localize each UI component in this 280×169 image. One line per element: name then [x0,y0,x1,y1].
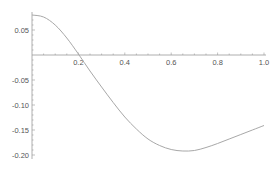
x-tick-label: 0.8 [212,58,222,67]
x-tick-label: 1.0 [259,58,269,67]
data-curve [32,15,264,151]
y-tick-label: -0.10 [12,101,29,110]
ticks [32,20,264,155]
line-chart: 0.20.40.60.81.00.05-0.05-0.10-0.15-0.20 [0,0,280,169]
x-tick-label: 0.6 [166,58,176,67]
y-tick-label: -0.05 [12,76,29,85]
tick-labels: 0.20.40.60.81.00.05-0.05-0.10-0.15-0.20 [12,26,269,160]
x-tick-label: 0.4 [120,58,130,67]
axes [32,12,266,159]
y-tick-label: -0.15 [12,126,29,135]
y-tick-label: 0.05 [14,26,29,35]
y-tick-label: -0.20 [12,151,29,160]
